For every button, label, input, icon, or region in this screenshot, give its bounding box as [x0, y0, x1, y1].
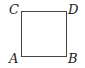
square	[21, 11, 67, 57]
vertex-label-a: A	[9, 52, 18, 65]
vertex-label-b: B	[68, 52, 78, 65]
vertex-label-c: C	[9, 3, 19, 16]
vertex-label-d: D	[68, 3, 78, 16]
